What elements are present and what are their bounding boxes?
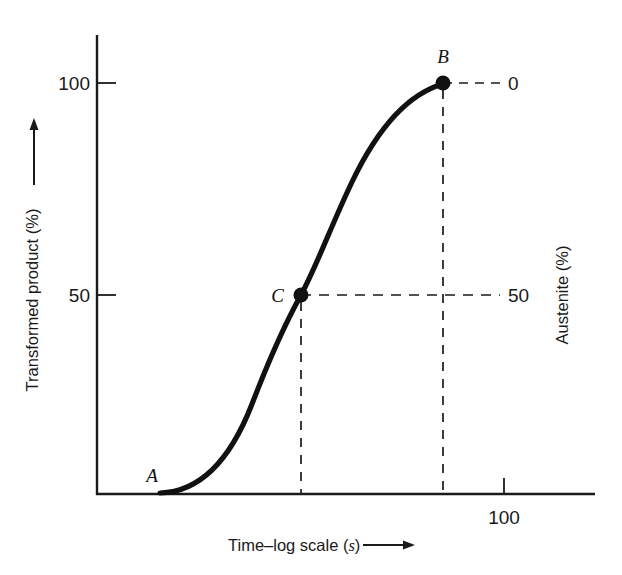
- bottom-axis-title-text: Time–log scale (: [228, 536, 349, 554]
- marker-point-c: [294, 288, 309, 303]
- point-label-a: A: [144, 465, 158, 486]
- y2-tick-label-50: 50: [508, 285, 529, 306]
- y-tick-label-50: 50: [69, 285, 90, 306]
- point-label-b: B: [437, 46, 449, 67]
- bottom-axis-title-close: ): [355, 536, 361, 554]
- bottom-axis-title: Time–log scale (s): [228, 536, 360, 555]
- figure-container: 100 50 100 0 50 B C A Transformed produc…: [0, 0, 622, 575]
- x-tick-label-100: 100: [488, 507, 520, 528]
- y-tick-label-100: 100: [58, 73, 90, 94]
- marker-point-b: [436, 76, 451, 91]
- right-axis-title: Austenite (%): [553, 245, 571, 344]
- left-axis-title: Transformed product (%): [23, 209, 41, 392]
- left-axis-title-group: Transformed product (%): [23, 209, 41, 392]
- right-axis-title-group: Austenite (%): [553, 245, 571, 344]
- point-label-c: C: [271, 285, 284, 306]
- y2-tick-label-0: 0: [508, 73, 519, 94]
